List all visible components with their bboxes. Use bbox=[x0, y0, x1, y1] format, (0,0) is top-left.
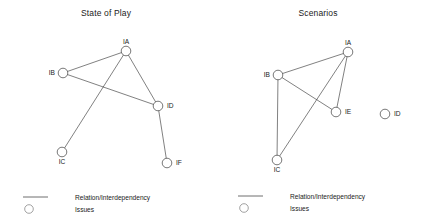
legend-relation-label: Relation/Interdependency bbox=[290, 193, 366, 201]
node-ib[interactable] bbox=[273, 70, 283, 80]
diagram-page: State of Play IAIBICIDIF Relation/Interd… bbox=[0, 0, 424, 224]
graph-scenarios: IAIBICIEID Relation/InterdependencyIssue… bbox=[212, 0, 424, 224]
legend-issues-label: Issues bbox=[75, 206, 95, 213]
legend-right: Relation/InterdependencyIssues bbox=[238, 193, 366, 213]
node-label-ic: IC bbox=[274, 166, 281, 173]
edge-IB-ID bbox=[63, 73, 158, 106]
panel-scenarios: Scenarios IAIBICIEID Relation/Interdepen… bbox=[212, 0, 424, 224]
edge-ID-IF bbox=[158, 106, 167, 163]
node-label-ie: IE bbox=[345, 108, 352, 115]
node-label-id: ID bbox=[394, 110, 401, 117]
graph-state-of-play: IAIBICIDIF Relation/InterdependencyIssue… bbox=[0, 0, 212, 224]
node-label-ib: IB bbox=[264, 71, 271, 78]
node-ib[interactable] bbox=[58, 68, 68, 78]
edge-IA-ID bbox=[126, 51, 158, 106]
node-label-ia: IA bbox=[345, 39, 352, 46]
node-ie[interactable] bbox=[331, 107, 341, 117]
node-if[interactable] bbox=[162, 158, 172, 168]
node-layer-right: IAIBICIEID bbox=[264, 39, 401, 173]
edge-IA-IB bbox=[278, 52, 348, 75]
node-ic[interactable] bbox=[272, 155, 282, 165]
node-label-if: IF bbox=[176, 159, 182, 166]
node-id[interactable] bbox=[153, 101, 163, 111]
edge-IB-IC bbox=[277, 75, 278, 160]
edge-layer-left bbox=[62, 51, 167, 163]
legend-issues-label: Issues bbox=[290, 205, 310, 212]
node-ic[interactable] bbox=[57, 147, 67, 157]
edge-IA-IC bbox=[62, 51, 126, 152]
panel-state-of-play: State of Play IAIBICIDIF Relation/Interd… bbox=[0, 0, 212, 224]
node-ia[interactable] bbox=[343, 47, 353, 57]
edge-IB-IE bbox=[278, 75, 336, 112]
node-label-ic: IC bbox=[59, 158, 66, 165]
node-label-id: ID bbox=[167, 102, 174, 109]
node-id[interactable] bbox=[380, 109, 390, 119]
edge-IA-IB bbox=[63, 51, 126, 73]
node-label-ia: IA bbox=[123, 38, 130, 45]
node-ia[interactable] bbox=[121, 46, 131, 56]
legend-left: Relation/InterdependencyIssues bbox=[23, 194, 151, 214]
legend-issues-swatch bbox=[25, 205, 34, 214]
node-label-ib: IB bbox=[49, 69, 56, 76]
edge-layer-right bbox=[277, 52, 348, 160]
legend-relation-label: Relation/Interdependency bbox=[75, 194, 151, 202]
legend-issues-swatch bbox=[240, 204, 249, 213]
node-layer-left: IAIBICIDIF bbox=[49, 38, 182, 168]
